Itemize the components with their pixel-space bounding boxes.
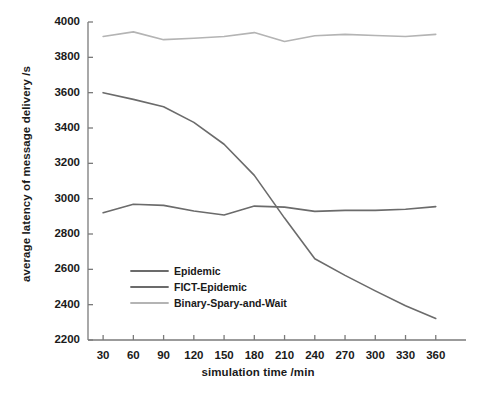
legend-item-label: Binary-Spary-and-Wait [174,297,287,309]
axis-tick-marks [88,22,436,340]
chart-container: average latency of message delivery /s s… [0,0,490,398]
series-line [103,204,436,215]
plot-area [0,0,490,398]
legend-item-label: Epidemic [174,265,221,277]
legend-swatch-group [131,271,168,303]
data-series-group [103,32,436,319]
axis-spines [88,22,466,340]
series-line [103,32,436,42]
legend-item-label: FICT-Epidemic [174,281,247,293]
